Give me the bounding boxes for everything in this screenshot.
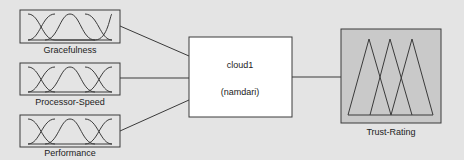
- input-box-performance[interactable]: [20, 115, 120, 147]
- connector-performance: [120, 100, 189, 131]
- input-label-gracefulness: Gracefulness: [43, 45, 96, 55]
- input-box-gracefulness[interactable]: [20, 10, 120, 43]
- system-name: cloud1: [227, 60, 254, 70]
- input-label-performance: Performance: [44, 148, 96, 158]
- input-box-processor-speed[interactable]: [20, 63, 120, 95]
- input-label-processor-speed: Processor-Speed: [35, 97, 105, 107]
- system-box[interactable]: [189, 37, 292, 117]
- output-label-trust-rating: Trust-Rating: [366, 127, 415, 137]
- output-box-trust-rating[interactable]: [341, 29, 441, 123]
- system-subtitle: (namdari): [221, 87, 260, 97]
- connector-gracefulness: [120, 26, 189, 56]
